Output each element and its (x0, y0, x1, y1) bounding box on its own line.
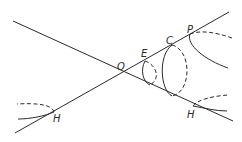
label-p: P (187, 24, 194, 35)
hyperbola-h-left-dashed (17, 104, 54, 112)
diagram-canvas: O E C P H H (0, 0, 242, 142)
hyperbola-h-right-dashed (193, 95, 228, 106)
label-h-right: H (187, 109, 195, 120)
label-e: E (141, 48, 148, 59)
label-o: O (117, 61, 125, 72)
label-h-left: H (53, 113, 61, 124)
ellipse-c-front (162, 45, 172, 96)
label-c: C (166, 35, 173, 46)
hyperbola-p-dashed (190, 32, 232, 38)
hyperbola-p-solid (189, 34, 228, 68)
hyperbola-h-left-solid (18, 112, 54, 119)
ellipse-c-back (172, 45, 187, 96)
